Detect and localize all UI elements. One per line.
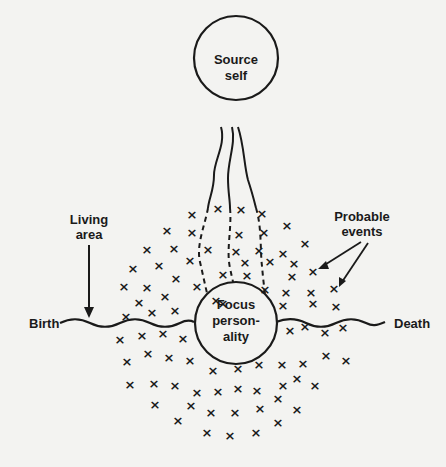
event-marker-icon: × [278, 246, 289, 261]
source-self-node: Source self [194, 16, 278, 100]
event-marker-icon: × [298, 356, 309, 371]
living-area-label-line2: area [76, 227, 104, 242]
event-marker-icon: × [142, 242, 153, 257]
event-marker-icon: × [254, 243, 265, 258]
event-marker-icon: × [213, 384, 224, 399]
event-marker-icon: × [338, 320, 349, 335]
event-marker-icon: × [170, 303, 181, 318]
focus-label-line3: ality [223, 329, 250, 344]
event-marker-icon: × [331, 299, 342, 314]
event-marker-icon: × [203, 242, 214, 257]
event-marker-icon: × [287, 269, 298, 284]
event-marker-icon: × [173, 413, 184, 428]
event-marker-icon: × [277, 357, 288, 372]
event-marker-icon: × [185, 353, 196, 368]
focus-label-line2: person- [212, 313, 260, 328]
event-marker-icon: × [149, 376, 160, 391]
event-marker-icon: × [320, 325, 331, 340]
event-marker-icon: × [273, 391, 284, 406]
event-marker-icon: × [265, 254, 276, 269]
event-marker-icon: × [162, 223, 173, 238]
probable-events-label-line2: events [341, 224, 382, 239]
event-marker-icon: × [329, 281, 340, 296]
death-label: Death [394, 316, 430, 331]
event-marker-icon: × [230, 405, 241, 420]
event-marker-icon: × [278, 298, 289, 313]
event-marker-icon: × [213, 201, 224, 216]
event-marker-icon: × [192, 279, 203, 294]
event-marker-icon: × [119, 279, 130, 294]
probable-events-label-line1: Probable [334, 209, 390, 224]
event-marker-icon: × [142, 280, 153, 295]
event-marker-icon: × [254, 357, 265, 372]
event-marker-icon: × [115, 332, 126, 347]
event-marker-icon: × [206, 405, 217, 420]
event-marker-icon: × [178, 331, 189, 346]
event-marker-icon: × [122, 354, 133, 369]
event-marker-icon: × [285, 323, 296, 338]
event-marker-icon: × [202, 425, 213, 440]
event-marker-icon: × [147, 305, 158, 320]
event-marker-icon: × [255, 401, 266, 416]
event-marker-icon: × [134, 295, 145, 310]
event-marker-icon: × [150, 397, 161, 412]
source-label-line2: self [225, 68, 248, 83]
event-marker-icon: × [187, 207, 198, 222]
event-marker-icon: × [292, 371, 303, 386]
event-marker-icon: × [308, 296, 319, 311]
event-marker-icon: × [164, 350, 175, 365]
probable-events-arrow-icon [342, 243, 368, 282]
event-marker-icon: × [236, 202, 247, 217]
living-area-label-line1: Living [70, 212, 108, 227]
event-marker-icon: × [171, 271, 182, 286]
event-marker-icon: × [218, 267, 229, 282]
living-area-callout: Living area [70, 212, 108, 318]
event-marker-icon: × [187, 225, 198, 240]
event-marker-icon: × [211, 293, 222, 308]
event-marker-icon: × [300, 319, 311, 334]
arrowhead-icon [84, 307, 94, 318]
event-marker-icon: × [292, 402, 303, 417]
probable-events-callout: Probable events [318, 209, 390, 287]
event-marker-icon: × [121, 309, 132, 324]
event-marker-icon: × [233, 361, 244, 376]
source-self-diagram: Source self Focus person- ality Birth De… [0, 0, 446, 467]
event-marker-icon: × [169, 241, 180, 256]
event-marker-icon: × [282, 218, 293, 233]
event-marker-icon: × [341, 353, 352, 368]
event-marker-icon: × [208, 363, 219, 378]
event-marker-icon: × [154, 258, 165, 273]
event-marker-icon: × [310, 378, 321, 393]
event-marker-icon: × [308, 264, 319, 279]
event-marker-icon: × [137, 328, 148, 343]
event-marker-icon: × [125, 377, 136, 392]
source-label-line1: Source [214, 52, 258, 67]
event-marker-icon: × [160, 289, 171, 304]
event-marker-icon: × [252, 383, 263, 398]
event-marker-icon: × [257, 206, 268, 221]
event-marker-icon: × [186, 398, 197, 413]
connection-lines [199, 127, 265, 294]
event-marker-icon: × [300, 236, 311, 251]
birth-label: Birth [29, 316, 59, 331]
event-marker-icon: × [233, 381, 244, 396]
event-marker-icon: × [321, 348, 332, 363]
event-marker-icon: × [242, 268, 253, 283]
event-marker-icon: × [259, 225, 270, 240]
event-marker-icon: × [143, 346, 154, 361]
event-marker-icon: × [185, 253, 196, 268]
event-marker-icon: × [158, 326, 169, 341]
event-marker-icon: × [260, 282, 271, 297]
event-marker-icon: × [251, 425, 262, 440]
event-marker-icon: × [234, 227, 245, 242]
event-marker-icon: × [170, 378, 181, 393]
event-marker-icon: × [128, 261, 139, 276]
event-marker-icon: × [273, 415, 284, 430]
event-marker-icon: × [225, 428, 236, 443]
